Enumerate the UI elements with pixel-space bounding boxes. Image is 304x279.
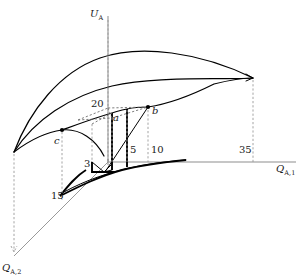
q-a-2-axis-label-main: Q xyxy=(2,262,10,273)
q-a-1-axis-label-main: Q xyxy=(276,163,284,174)
figure-canvas xyxy=(0,0,304,279)
tick-label-10: 10 xyxy=(151,145,164,155)
tick-label-3: 3 xyxy=(84,159,90,169)
q-a-1-axis-label-sub: A,1 xyxy=(284,169,295,177)
upper-surface-ridge-curve xyxy=(14,51,253,152)
q-a-2-axis-line xyxy=(14,162,108,256)
q-a-2-axis-label-sub: A,2 xyxy=(10,268,21,276)
indifference-curve-b-to-ridge xyxy=(148,78,253,107)
q-a-2-axis-label: QA,2 xyxy=(2,263,21,273)
u-a-axis-label-sub: A xyxy=(98,14,103,22)
point-c-marker xyxy=(60,128,64,132)
u-a-axis-label: UA xyxy=(90,9,103,19)
tick-label-35: 35 xyxy=(239,145,252,155)
tick-label-5: 5 xyxy=(130,145,136,155)
point-c-label: c xyxy=(54,136,60,146)
point-b-marker xyxy=(146,105,150,109)
tick-label-20: 20 xyxy=(91,99,104,109)
figure-root: UA QA,1 QA,2 20 3 5 10 15 35 a b c xyxy=(0,0,304,279)
q-a-1-axis-label: QA,1 xyxy=(276,164,295,174)
point-b-label: b xyxy=(152,106,158,116)
dashed-20-top-edge xyxy=(108,107,148,108)
point-a-label: a xyxy=(113,113,119,123)
lower-surface-ridge-curve xyxy=(14,78,253,152)
tick-label-15: 15 xyxy=(51,191,64,201)
